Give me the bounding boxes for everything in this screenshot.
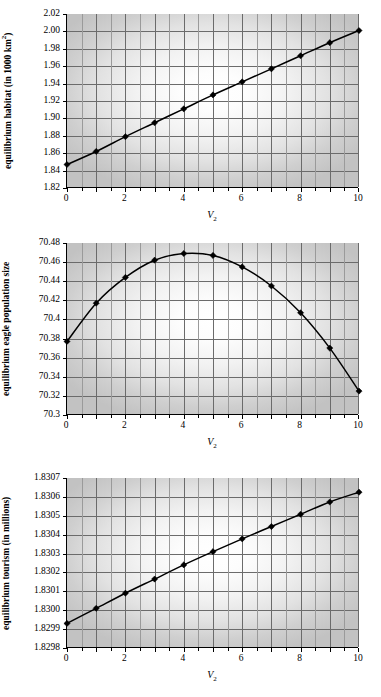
chart-equilibrium-eagle-population: equilibrium eagle population size 70.370…	[0, 234, 381, 465]
x-axis-tick	[213, 648, 214, 652]
x-tick-label: 2	[122, 654, 127, 664]
y-tick-label: 1.8306	[34, 492, 60, 502]
y-axis-tick	[63, 262, 67, 263]
x-axis-tick	[330, 188, 331, 192]
x-axis-tick	[344, 648, 345, 651]
x-axis-tick	[315, 648, 316, 651]
x-tick-label: 10	[353, 194, 363, 204]
data-point-marker	[122, 134, 128, 140]
x-tick-label: 6	[239, 654, 244, 664]
chart1-y-axis-title-text: equilibrium habitat (in 1000 km	[3, 39, 13, 169]
y-axis-tick	[63, 84, 67, 85]
x-axis-tick	[242, 188, 243, 192]
x-axis-tick	[301, 648, 302, 652]
x-tick-label: 4	[180, 194, 185, 204]
figure-sheet: equilibrium habitat (in 1000 km2) 1.821.…	[0, 0, 381, 697]
chart1-data-series	[67, 14, 359, 188]
x-tick-label: 8	[297, 654, 302, 664]
data-point-marker	[239, 536, 245, 542]
chart2-x-axis-title-sub: 2	[213, 442, 217, 450]
x-axis-tick	[213, 188, 214, 192]
x-tick-label: 4	[180, 654, 185, 664]
x-axis-tick	[358, 415, 359, 419]
x-axis-tick	[82, 648, 83, 651]
x-axis-tick	[184, 415, 185, 419]
data-point-marker	[181, 106, 187, 112]
y-axis-tick	[63, 377, 67, 378]
x-axis-tick	[301, 188, 302, 192]
y-tick-label: 1.92	[43, 96, 60, 106]
x-axis-tick	[198, 648, 199, 651]
x-axis-tick	[301, 415, 302, 419]
x-axis-tick	[96, 415, 97, 419]
y-tick-label: 70.38	[39, 334, 60, 344]
y-tick-label: 1.8300	[34, 605, 60, 615]
chart1-plot-area	[66, 14, 358, 188]
y-tick-label: 2.00	[43, 27, 60, 37]
x-axis-tick	[257, 188, 258, 191]
y-axis-tick	[63, 497, 67, 498]
data-point-marker	[268, 66, 274, 72]
y-axis-tick	[63, 136, 67, 137]
x-axis-tick	[228, 188, 229, 191]
y-tick-label: 2.02	[43, 9, 60, 19]
y-axis-tick	[63, 629, 67, 630]
x-axis-tick	[344, 188, 345, 191]
x-axis-tick	[155, 648, 156, 652]
data-point-marker	[181, 562, 187, 568]
y-tick-label: 70.32	[39, 391, 60, 401]
x-axis-tick	[271, 648, 272, 652]
y-axis-tick	[63, 478, 67, 479]
x-axis-tick	[315, 188, 316, 191]
x-axis-tick	[96, 188, 97, 192]
x-tick-label: 6	[239, 194, 244, 204]
x-axis-tick	[125, 648, 126, 652]
y-tick-label: 1.8298	[34, 643, 60, 653]
y-axis-tick	[63, 171, 67, 172]
chart-equilibrium-tourism: equilibrium tourism (in millions) 1.8298…	[0, 465, 381, 697]
y-axis-tick	[63, 31, 67, 32]
data-point-marker	[181, 250, 187, 256]
x-axis-tick	[344, 415, 345, 418]
data-point-marker	[93, 605, 99, 611]
x-axis-tick	[286, 188, 287, 191]
data-point-marker	[268, 523, 274, 529]
y-tick-label: 70.44	[39, 276, 60, 286]
data-point-marker	[356, 489, 362, 495]
series-line	[67, 253, 359, 391]
x-axis-tick	[140, 415, 141, 418]
x-axis-tick	[125, 188, 126, 192]
y-axis-tick	[63, 118, 67, 119]
x-tick-label: 10	[353, 654, 363, 664]
y-tick-label: 70.46	[39, 257, 60, 267]
y-tick-label: 70.36	[39, 353, 60, 363]
chart1-y-axis-title-tail: )	[3, 33, 13, 36]
x-axis-tick	[228, 648, 229, 651]
data-point-marker	[210, 92, 216, 98]
x-axis-tick	[184, 648, 185, 652]
chart3-y-tick-labels: 1.82981.82991.83001.83011.83021.83031.83…	[26, 478, 60, 648]
data-point-marker	[93, 148, 99, 154]
x-axis-tick	[155, 188, 156, 192]
x-axis-tick	[198, 415, 199, 418]
x-axis-tick	[228, 415, 229, 418]
y-tick-label: 1.8301	[34, 587, 60, 597]
y-tick-label: 1.8307	[34, 473, 60, 483]
y-tick-label: 1.8299	[34, 624, 60, 634]
x-tick-label: 8	[297, 194, 302, 204]
x-axis-tick	[271, 415, 272, 419]
x-tick-label: 10	[353, 421, 363, 431]
data-point-marker	[152, 257, 158, 263]
data-point-marker	[298, 511, 304, 517]
y-tick-label: 1.8303	[34, 549, 60, 559]
y-tick-label: 1.84	[43, 166, 60, 176]
x-tick-label: 6	[239, 421, 244, 431]
y-tick-label: 1.94	[43, 79, 60, 89]
chart1-x-axis-title: V2	[66, 210, 358, 223]
x-axis-tick	[155, 415, 156, 419]
y-tick-label: 70.3	[43, 410, 60, 420]
x-axis-tick	[330, 648, 331, 652]
chart2-y-axis-title-text: equilibrium eagle population size	[1, 262, 11, 396]
y-axis-tick	[63, 153, 67, 154]
y-tick-label: 1.88	[43, 131, 60, 141]
